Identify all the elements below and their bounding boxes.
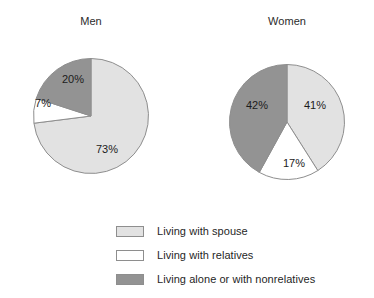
pie-chart-women: 41% 17% 42% (226, 58, 348, 186)
legend-item-living-with-spouse: Living with spouse (116, 219, 366, 243)
legend: Living with spouse Living with relatives… (116, 219, 366, 291)
legend-swatch-icon-living-with-relatives (116, 250, 144, 261)
pie-slice-label-men-alone: 20% (62, 73, 84, 85)
pie-chart-figure: Men Women 73% 7% 20% 41% 17% 42% Living … (0, 0, 374, 298)
pie-slice-label-men-relatives: 7% (35, 97, 51, 109)
legend-label-living-alone-or-with-nonrelatives: Living alone or with nonrelatives (157, 273, 315, 285)
pie-chart-men: 73% 7% 20% (30, 52, 152, 180)
legend-item-living-alone-or-with-nonrelatives: Living alone or with nonrelatives (116, 267, 366, 291)
pie-slice-label-women-alone: 42% (246, 99, 268, 111)
pie-title-women: Women (252, 15, 322, 27)
pie-slice-label-women-relatives: 17% (283, 157, 305, 169)
pie-men-slices (33, 58, 148, 173)
pie-slice-label-men-spouse: 73% (96, 143, 118, 155)
legend-label-living-with-spouse: Living with spouse (157, 225, 248, 237)
legend-item-living-with-relatives: Living with relatives (116, 243, 366, 267)
legend-swatch-icon-living-alone-or-with-nonrelatives (116, 274, 144, 285)
pie-slice-label-women-spouse: 41% (304, 99, 326, 111)
legend-swatch-icon-living-with-spouse (116, 226, 144, 237)
pie-title-men: Men (56, 15, 126, 27)
legend-label-living-with-relatives: Living with relatives (157, 249, 253, 261)
